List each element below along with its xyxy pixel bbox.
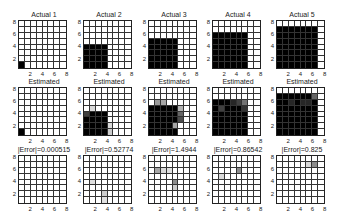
heatmap-grid bbox=[83, 20, 132, 69]
estimated-panel-1: Estimated86422468 bbox=[10, 78, 72, 146]
panel-title: |Error|=0.86542 bbox=[210, 146, 266, 154]
grid-cell bbox=[318, 62, 324, 68]
x-tick-label: 6 bbox=[309, 206, 317, 212]
actual-panel-4: Actual 486422468 bbox=[204, 11, 266, 79]
y-tick-label: 2 bbox=[204, 191, 210, 197]
grid-cell bbox=[60, 62, 66, 68]
y-tick-label: 4 bbox=[10, 43, 16, 49]
panel-title: Actual 3 bbox=[146, 11, 202, 19]
y-tick-label: 6 bbox=[10, 31, 16, 37]
y-tick-label: 8 bbox=[140, 86, 146, 92]
x-tick-label: 8 bbox=[63, 71, 71, 77]
grid-cell bbox=[254, 129, 260, 135]
x-tick-label: 2 bbox=[26, 138, 34, 144]
y-tick-label: 2 bbox=[10, 56, 16, 62]
y-tick-label: 8 bbox=[268, 19, 274, 25]
y-tick-label: 8 bbox=[204, 154, 210, 160]
x-tick-label: 8 bbox=[128, 71, 136, 77]
heatmap-grid bbox=[276, 87, 325, 136]
x-tick-label: 6 bbox=[116, 71, 124, 77]
x-tick-label: 2 bbox=[284, 138, 292, 144]
error-panel-3: |Error|=1.494486422468 bbox=[140, 146, 202, 214]
heatmap-grid bbox=[148, 155, 197, 204]
y-tick-label: 2 bbox=[10, 191, 16, 197]
y-tick-label: 8 bbox=[10, 154, 16, 160]
panel-title: Estimated bbox=[146, 78, 202, 86]
y-tick-label: 8 bbox=[75, 86, 81, 92]
actual-panel-3: Actual 386422468 bbox=[140, 11, 202, 79]
y-tick-label: 8 bbox=[140, 19, 146, 25]
y-tick-label: 4 bbox=[140, 178, 146, 184]
panel-title: |Error|=0.52774 bbox=[81, 146, 137, 154]
x-tick-label: 4 bbox=[103, 138, 111, 144]
x-tick-label: 8 bbox=[257, 71, 265, 77]
x-tick-label: 6 bbox=[245, 71, 253, 77]
estimated-panel-3: Estimated86422468 bbox=[140, 78, 202, 146]
grid-cell bbox=[318, 197, 324, 203]
x-tick-label: 6 bbox=[51, 138, 59, 144]
y-tick-label: 2 bbox=[268, 123, 274, 129]
y-tick-label: 8 bbox=[75, 154, 81, 160]
heatmap-grid bbox=[18, 155, 67, 204]
x-tick-label: 4 bbox=[103, 206, 111, 212]
y-tick-label: 6 bbox=[75, 98, 81, 104]
y-tick-label: 6 bbox=[268, 166, 274, 172]
y-tick-label: 6 bbox=[10, 98, 16, 104]
y-tick-label: 2 bbox=[268, 191, 274, 197]
y-tick-label: 4 bbox=[140, 110, 146, 116]
y-tick-label: 4 bbox=[75, 178, 81, 184]
x-tick-label: 4 bbox=[103, 71, 111, 77]
heatmap-grid bbox=[212, 87, 261, 136]
x-tick-label: 4 bbox=[168, 71, 176, 77]
y-tick-label: 4 bbox=[204, 178, 210, 184]
x-tick-label: 2 bbox=[26, 206, 34, 212]
panel-title: Estimated bbox=[81, 78, 137, 86]
grid-cell bbox=[60, 129, 66, 135]
error-panel-1: |Error|=0.00051586422468 bbox=[10, 146, 72, 214]
x-tick-label: 8 bbox=[193, 71, 201, 77]
y-tick-label: 2 bbox=[75, 56, 81, 62]
heatmap-grid bbox=[18, 20, 67, 69]
x-tick-label: 2 bbox=[156, 138, 164, 144]
heatmap-grid bbox=[276, 20, 325, 69]
y-tick-label: 2 bbox=[75, 123, 81, 129]
x-tick-label: 2 bbox=[156, 206, 164, 212]
grid-cell bbox=[190, 197, 196, 203]
x-tick-label: 8 bbox=[128, 206, 136, 212]
panel-title: Actual 4 bbox=[210, 11, 266, 19]
x-tick-label: 6 bbox=[51, 206, 59, 212]
estimated-panel-5: Estimated86422468 bbox=[268, 78, 330, 146]
x-tick-label: 6 bbox=[309, 71, 317, 77]
grid-cell bbox=[190, 129, 196, 135]
y-tick-label: 6 bbox=[204, 31, 210, 37]
x-tick-label: 4 bbox=[296, 71, 304, 77]
estimated-panel-4: Estimated86422468 bbox=[204, 78, 266, 146]
heatmap-grid bbox=[83, 87, 132, 136]
grid-cell bbox=[125, 62, 131, 68]
y-tick-label: 4 bbox=[204, 110, 210, 116]
actual-panel-5: Actual 586422468 bbox=[268, 11, 330, 79]
estimated-panel-2: Estimated86422468 bbox=[75, 78, 137, 146]
grid-cell bbox=[254, 62, 260, 68]
x-tick-label: 6 bbox=[116, 138, 124, 144]
y-tick-label: 6 bbox=[140, 98, 146, 104]
y-tick-label: 4 bbox=[268, 43, 274, 49]
heatmap-grid bbox=[83, 155, 132, 204]
x-tick-label: 6 bbox=[181, 138, 189, 144]
x-tick-label: 6 bbox=[245, 138, 253, 144]
x-tick-label: 6 bbox=[181, 71, 189, 77]
y-tick-label: 6 bbox=[268, 31, 274, 37]
x-tick-label: 8 bbox=[257, 138, 265, 144]
y-tick-label: 2 bbox=[140, 123, 146, 129]
y-tick-label: 2 bbox=[140, 56, 146, 62]
panel-title: |Error|=0.825 bbox=[274, 146, 330, 154]
y-tick-label: 4 bbox=[75, 43, 81, 49]
y-tick-label: 2 bbox=[268, 56, 274, 62]
x-tick-label: 8 bbox=[63, 138, 71, 144]
x-tick-label: 2 bbox=[220, 206, 228, 212]
x-tick-label: 4 bbox=[38, 138, 46, 144]
y-tick-label: 6 bbox=[140, 31, 146, 37]
x-tick-label: 6 bbox=[181, 206, 189, 212]
heatmap-grid bbox=[148, 87, 197, 136]
y-tick-label: 4 bbox=[140, 43, 146, 49]
